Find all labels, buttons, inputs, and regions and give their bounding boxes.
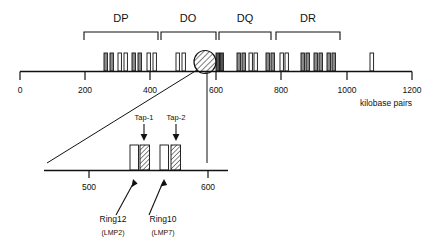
gene-bar bbox=[319, 53, 322, 71]
ring-annotations: Ring12 (LMP2) Ring10 (LMP7) bbox=[100, 179, 177, 237]
region-brackets: DP DO DQ DR bbox=[84, 12, 340, 40]
gene-bars-inset bbox=[130, 145, 181, 170]
gene-bar bbox=[220, 53, 223, 71]
gene-map-figure: DP DO DQ DR bbox=[0, 0, 432, 251]
gene-bar bbox=[249, 53, 252, 71]
gene-bar bbox=[280, 53, 283, 71]
tap1-arrow-icon bbox=[141, 124, 148, 141]
ring12-alias-label: (LMP2) bbox=[102, 229, 125, 237]
gene-bar bbox=[138, 53, 141, 71]
centromere-marker-icon bbox=[194, 51, 216, 74]
gene-bar bbox=[370, 53, 374, 71]
gene-bar bbox=[182, 53, 185, 71]
gene-bar bbox=[301, 53, 304, 71]
gene-bar bbox=[147, 53, 150, 71]
region-label-do: DO bbox=[180, 12, 197, 24]
gene-bar bbox=[266, 53, 269, 71]
region-label-dp: DP bbox=[113, 12, 128, 24]
ring12-label: Ring12 bbox=[100, 214, 127, 224]
gene-bar bbox=[285, 53, 288, 71]
axis-tick-label: 800 bbox=[274, 85, 288, 95]
axis-tick-label: 1000 bbox=[338, 85, 357, 95]
axis-tick-label: 600 bbox=[209, 85, 223, 95]
tap2-label: Tap-2 bbox=[167, 113, 186, 122]
gene-bar bbox=[237, 53, 240, 71]
gene-bar bbox=[271, 53, 274, 71]
gene-bar bbox=[332, 53, 335, 71]
inset-tick-label: 500 bbox=[82, 182, 96, 192]
gene-map-svg: DP DO DQ DR bbox=[0, 0, 432, 251]
axis-tick-label: 1200 bbox=[403, 85, 422, 95]
region-label-dq: DQ bbox=[237, 12, 254, 24]
gene-bar bbox=[306, 53, 309, 71]
bracket-dq bbox=[219, 32, 271, 40]
inset-top-annotations: Tap-1 Tap-2 bbox=[135, 113, 186, 141]
axis-tick-label: 400 bbox=[143, 85, 157, 95]
gene-bars-main bbox=[104, 53, 374, 71]
gene-bar bbox=[254, 53, 257, 71]
axis-unit-label: kilobase pairs bbox=[360, 98, 412, 108]
region-label-dr: DR bbox=[300, 12, 316, 24]
ring12-arrow-icon bbox=[116, 179, 138, 215]
gene-bar bbox=[327, 53, 330, 71]
gene-bar bbox=[242, 53, 245, 71]
main-axis: 0 200 400 600 800 1000 1200 kilobase pai… bbox=[18, 72, 422, 109]
inset-gene-bar-tap2 bbox=[171, 145, 181, 170]
inset-gene-bar bbox=[130, 145, 139, 170]
ring10-arrow-icon bbox=[149, 179, 167, 215]
gene-bar bbox=[104, 53, 107, 71]
gene-bar bbox=[132, 53, 135, 71]
gene-bar bbox=[314, 53, 317, 71]
inset-axis: 500 600 bbox=[44, 171, 228, 193]
tap1-label: Tap-1 bbox=[135, 113, 154, 122]
bracket-dr bbox=[276, 32, 340, 40]
axis-tick-label: 0 bbox=[18, 85, 23, 95]
axis-tick-label: 200 bbox=[78, 85, 92, 95]
gene-bar bbox=[176, 53, 179, 71]
inset-tick-label: 600 bbox=[201, 182, 215, 192]
bracket-do bbox=[161, 32, 216, 40]
ring10-label: Ring10 bbox=[150, 214, 177, 224]
inset-gene-bar bbox=[160, 145, 169, 170]
tap2-arrow-icon bbox=[173, 124, 180, 141]
gene-bar bbox=[153, 53, 156, 71]
gene-bar bbox=[124, 53, 127, 71]
inset-gene-bar-tap1 bbox=[140, 145, 150, 170]
gene-bar bbox=[110, 53, 113, 71]
ring10-alias-label: (LMP7) bbox=[152, 229, 175, 237]
bracket-dp bbox=[84, 32, 158, 40]
gene-bar bbox=[118, 53, 121, 71]
